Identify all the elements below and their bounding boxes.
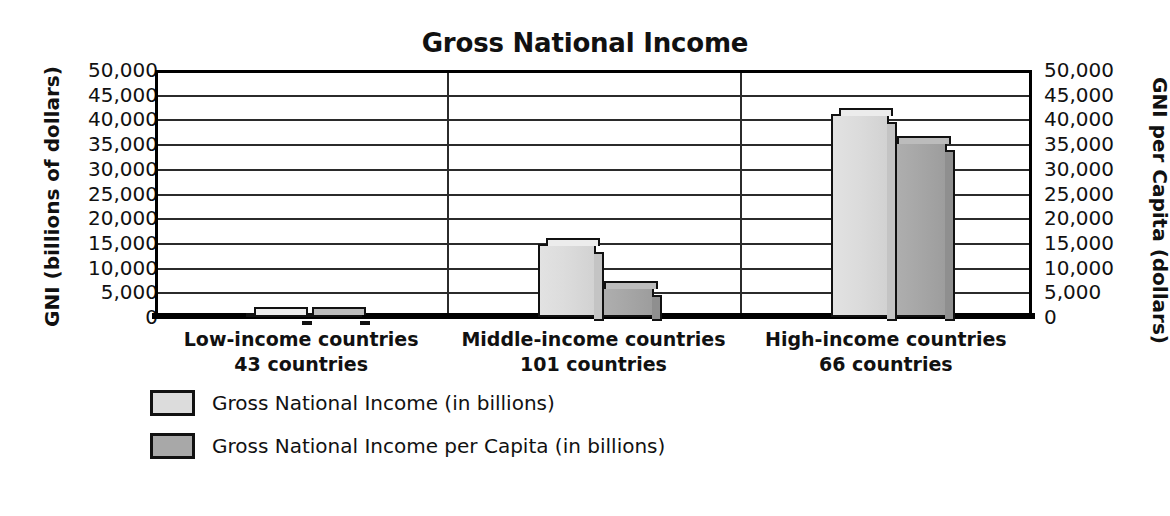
bar-top xyxy=(897,136,951,144)
bar-face xyxy=(598,289,652,315)
bar-side xyxy=(302,321,312,325)
bar-top xyxy=(312,307,366,315)
y-tick-right: 0 xyxy=(1044,307,1057,327)
category-count: 66 countries xyxy=(740,352,1032,377)
category-label: Low-income countries43 countries xyxy=(155,327,447,377)
bar-top xyxy=(839,108,893,116)
bar-top xyxy=(604,281,658,289)
bar-face xyxy=(540,246,594,315)
category-count: 43 countries xyxy=(155,352,447,377)
category-name: Low-income countries xyxy=(155,327,447,352)
y-tick-left: 15,000 xyxy=(88,233,158,253)
category-count: 101 countries xyxy=(447,352,739,377)
y-tick-left: 20,000 xyxy=(88,208,158,228)
y-tick-left: 25,000 xyxy=(88,184,158,204)
bar xyxy=(831,114,889,317)
y-tick-left: 50,000 xyxy=(88,60,158,80)
y-tick-right: 35,000 xyxy=(1044,134,1114,154)
bar xyxy=(538,244,596,317)
y-tick-right: 10,000 xyxy=(1044,258,1114,278)
bar-face xyxy=(891,144,945,315)
bar-side xyxy=(594,252,604,321)
y-tick-right: 5,000 xyxy=(1044,282,1101,302)
category-label: High-income countries66 countries xyxy=(740,327,1032,377)
bar xyxy=(596,287,654,317)
chart-title: Gross National Income xyxy=(0,28,1170,58)
y-tick-right: 45,000 xyxy=(1044,85,1114,105)
y-tick-right: 20,000 xyxy=(1044,208,1114,228)
bar-side xyxy=(945,150,955,321)
bar-top xyxy=(254,307,308,315)
y-tick-right: 25,000 xyxy=(1044,184,1114,204)
y-tick-right: 40,000 xyxy=(1044,109,1114,129)
bar xyxy=(304,313,362,317)
bar-side xyxy=(652,295,662,321)
bar-group xyxy=(450,73,742,317)
legend-label: Gross National Income (in billions) xyxy=(212,391,555,415)
y-tick-right: 30,000 xyxy=(1044,159,1114,179)
y-tick-left: 30,000 xyxy=(88,159,158,179)
bar-side xyxy=(360,321,370,325)
plot-area xyxy=(155,70,1032,317)
legend-item[interactable]: Gross National Income (in billions) xyxy=(150,386,665,420)
legend-label: Gross National Income per Capita (in bil… xyxy=(212,434,665,458)
chart-legend: Gross National Income (in billions)Gross… xyxy=(150,386,665,472)
bar xyxy=(246,313,304,317)
y-tick-left: 10,000 xyxy=(88,258,158,278)
category-name: Middle-income countries xyxy=(447,327,739,352)
bar xyxy=(889,142,947,317)
y-axis-ticks-right: 50,00045,00040,00035,00030,00025,00020,0… xyxy=(1044,0,1154,516)
bar-side xyxy=(887,122,897,321)
y-axis-ticks-left: 50,00045,00040,00035,00030,00025,00020,0… xyxy=(48,0,158,516)
y-tick-left: 45,000 xyxy=(88,85,158,105)
y-tick-right: 15,000 xyxy=(1044,233,1114,253)
y-tick-left: 5,000 xyxy=(101,282,158,302)
y-tick-right: 50,000 xyxy=(1044,60,1114,80)
bar-face xyxy=(833,116,887,315)
legend-item[interactable]: Gross National Income per Capita (in bil… xyxy=(150,429,665,463)
category-name: High-income countries xyxy=(740,327,1032,352)
bar-group xyxy=(158,73,450,317)
chart-figure: Gross National Income GNI (billions of d… xyxy=(0,0,1170,516)
legend-swatch xyxy=(150,433,195,459)
y-tick-left: 35,000 xyxy=(88,134,158,154)
legend-swatch xyxy=(150,390,195,416)
y-tick-left: 40,000 xyxy=(88,109,158,129)
bar-group xyxy=(743,73,1035,317)
category-label: Middle-income countries101 countries xyxy=(447,327,739,377)
bar-top xyxy=(546,238,600,246)
